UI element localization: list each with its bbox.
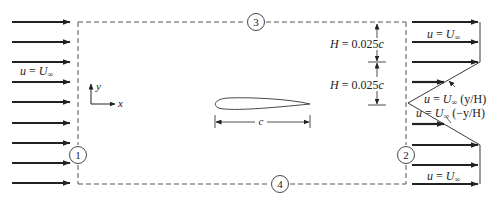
airfoil	[215, 98, 310, 110]
upper-wake-pointer	[449, 81, 455, 87]
svg-text:4: 4	[277, 178, 283, 190]
outflow-top-label: u = U∞	[427, 27, 460, 42]
chord-label: c	[259, 115, 264, 127]
svg-text:2: 2	[403, 149, 409, 161]
boundary-marker-3: 3	[248, 14, 265, 31]
inflow-label: u = U∞	[20, 64, 53, 79]
svg-text:1: 1	[75, 149, 81, 161]
svg-text:3: 3	[253, 16, 259, 28]
control-volume-diagram: u = U∞ 1 2 3 4 y x c	[0, 0, 498, 199]
x-axis-label: x	[117, 97, 123, 109]
upper-wake-label: u = U∞ (y/H)	[424, 92, 486, 107]
coordinate-axes	[91, 84, 115, 104]
upper-H-label: H = 0.025c	[329, 37, 384, 51]
boundary-marker-4: 4	[272, 176, 289, 193]
outflow-bottom-label: u = U∞	[427, 169, 460, 184]
lower-wake-label: u = U∞ (−y/H)	[416, 106, 485, 121]
boundary-marker-1: 1	[70, 147, 87, 164]
boundary-marker-2: 2	[398, 147, 415, 164]
lower-H-label: H = 0.025c	[329, 78, 384, 92]
inflow-arrows	[12, 22, 70, 183]
y-axis-label: y	[95, 80, 101, 92]
